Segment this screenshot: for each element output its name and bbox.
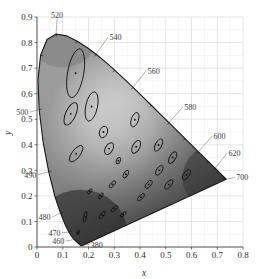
x-tick-label: 0 [35,250,40,260]
wavelength-label-620: 620 [229,149,241,158]
x-tick-label: 0.3 [109,250,121,260]
wavelength-label-580: 580 [184,103,196,112]
y-tick-label: 0.2 [21,191,32,201]
ellipse-center-point [135,146,137,148]
ellipse-center-point [148,183,150,185]
ellipse-center-point [158,169,160,171]
ellipse-center-point [75,72,77,74]
x-tick-label: 0.6 [186,250,198,260]
ellipse-center-point [125,173,127,175]
x-tick-label: 0.8 [237,250,249,260]
ellipse-center-point [158,144,160,146]
ellipse-center-point [70,113,72,115]
ellipse-center-point [84,216,86,218]
y-tick-label: 0.6 [21,89,33,99]
wavelength-label-600: 600 [214,132,226,141]
y-tick-label: 0.7 [21,63,33,73]
ellipse-center-point [100,195,102,197]
wavelength-label-540: 540 [110,33,122,42]
x-tick-label: 0.5 [160,250,172,260]
y-axis-title: y [3,130,13,136]
ellipse-center-point [89,190,91,192]
ellipse-center-point [75,153,77,155]
ellipse-center-point [134,119,136,121]
x-tick-label: 0.2 [83,250,94,260]
ellipse-center-point [114,208,116,210]
y-tick-label: 0.1 [21,217,32,227]
wavelength-label-490: 490 [24,171,36,180]
chromaticity-plot: 00.10.20.30.40.50.60.70.800.10.20.30.40.… [0,0,260,279]
ellipse-center-point [91,105,93,107]
ellipse-center-point [117,160,119,162]
ellipse-center-point [140,196,142,198]
ellipse-center-point [101,214,103,216]
wavelength-label-500: 500 [16,108,28,117]
ellipse-center-point [108,148,110,150]
wavelength-label-380: 380 [91,241,103,250]
y-tick-label: 0.4 [21,140,33,150]
wavelength-label-480: 480 [38,213,50,222]
x-tick-label: 0.4 [134,250,146,260]
y-tick-label: 0.9 [21,12,33,22]
ellipse-center-point [77,231,79,233]
y-tick-label: 0 [28,242,33,252]
wavelength-label-700: 700 [236,173,248,182]
wavelength-label-560: 560 [148,67,160,76]
ellipse-center-point [102,131,104,133]
x-tick-label: 0.1 [57,250,68,260]
ellipse-center-point [168,183,170,185]
ellipse-center-point [172,157,174,159]
y-tick-label: 0.8 [21,38,33,48]
ellipse-center-point [122,213,124,215]
wavelength-label-520: 520 [51,11,63,20]
x-axis-title: x [141,268,147,278]
wavelength-label-460: 460 [52,237,64,246]
wavelength-label-470: 470 [48,229,60,238]
x-tick-label: 0.7 [212,250,224,260]
ellipse-center-point [112,183,114,185]
chromaticity-diagram-figure: 00.10.20.30.40.50.60.70.800.10.20.30.40.… [0,0,260,279]
ellipse-center-point [185,174,187,176]
